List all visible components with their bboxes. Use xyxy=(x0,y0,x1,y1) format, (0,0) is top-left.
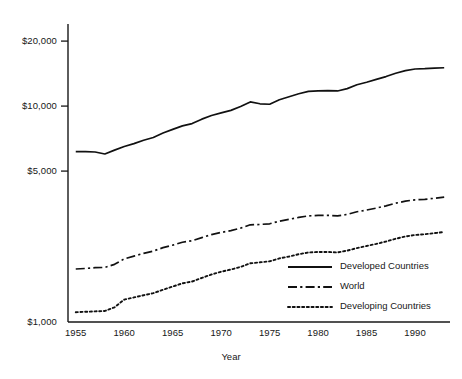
x-axis-tick-label: 1980 xyxy=(293,327,343,338)
y-axis-tick-label: $5,000 xyxy=(0,165,57,176)
axis-lines xyxy=(68,24,450,322)
y-axis-tick-label: $10,000 xyxy=(0,100,57,111)
legend-label: Developed Countries xyxy=(340,260,429,271)
x-axis-tick-label: 1975 xyxy=(245,327,295,338)
legend-label: Developing Countries xyxy=(340,300,431,311)
y-axis-tick-label: $1,000 xyxy=(0,316,57,327)
x-axis-tick-label: 1960 xyxy=(99,327,149,338)
series-line-world xyxy=(76,197,444,269)
x-axis-tick-label: 1985 xyxy=(342,327,392,338)
x-axis-title: Year xyxy=(181,351,281,362)
y-axis-tick-label: $20,000 xyxy=(0,35,57,46)
x-axis-tick-label: 1965 xyxy=(148,327,198,338)
legend-sample-lines xyxy=(288,267,332,307)
legend-label: World xyxy=(340,280,365,291)
chart-container: $20,000$10,000$5,000$1,000 1955196019651… xyxy=(0,0,462,379)
y-axis-ticks xyxy=(61,41,68,171)
line-chart-plot xyxy=(0,0,462,379)
x-axis-tick-label: 1955 xyxy=(51,327,101,338)
data-series-layer xyxy=(76,68,444,312)
series-line-developed-countries xyxy=(76,68,444,154)
x-axis-tick-label: 1990 xyxy=(390,327,440,338)
x-axis-tick-label: 1970 xyxy=(196,327,246,338)
